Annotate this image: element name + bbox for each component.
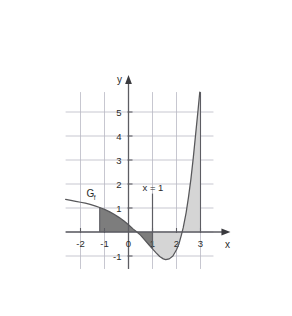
x-tick-label-neg2: -2 <box>76 238 84 249</box>
y-tick-label-2: 2 <box>116 179 121 190</box>
y-tick-label-neg1: -1 <box>113 251 121 262</box>
y-axis-label: y <box>117 74 122 85</box>
y-tick-label-3: 3 <box>116 155 121 166</box>
y-tick-label-4: 4 <box>116 131 121 142</box>
x-tick-label-neg1: -1 <box>100 238 108 249</box>
x-equals-1-label: x = 1 <box>143 182 164 193</box>
plot-canvas: -2-1012312345-1 x = 1 G f x y <box>0 0 292 316</box>
y-tick-label-5: 5 <box>116 107 121 118</box>
plot-background <box>0 0 292 316</box>
x-tick-label-3: 3 <box>198 238 203 249</box>
x-tick-label-2: 2 <box>174 238 179 249</box>
y-tick-label-1: 1 <box>116 203 121 214</box>
function-plot-figure: -2-1012312345-1 x = 1 G f x y <box>0 0 292 316</box>
curve-label-subscript-f: f <box>94 194 96 201</box>
x-tick-label-0: 0 <box>126 238 131 249</box>
x-axis-label: x <box>225 239 230 250</box>
